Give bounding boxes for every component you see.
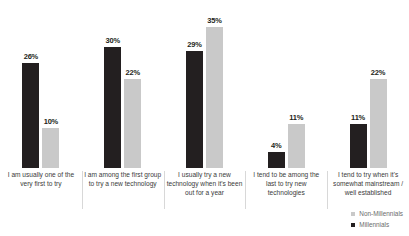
category-label: I tend to try when it's somewhat mainstr…	[327, 170, 409, 198]
bar-non-millennials	[206, 27, 223, 168]
category-label: I tend to be among the last to try new t…	[245, 170, 327, 198]
bar-chart: 26%10%30%22%29%35%4%11%11%22% I am usual…	[0, 0, 409, 236]
bar-value-label: 29%	[187, 40, 201, 49]
legend-label: Non-Millennials	[359, 209, 403, 218]
bar-column: 35%	[206, 0, 223, 168]
legend-label: Millennials	[359, 220, 389, 229]
bar-value-label: 35%	[207, 16, 221, 25]
bar-value-label: 22%	[125, 68, 139, 77]
legend-swatch-icon	[351, 212, 355, 216]
bar-non-millennials	[42, 128, 59, 168]
bar-column: 22%	[370, 0, 387, 168]
category-separator	[164, 171, 165, 209]
bar-column: 29%	[186, 0, 203, 168]
bar-column: 26%	[22, 0, 39, 168]
category-label: I usually try a new technology when it's…	[164, 170, 246, 198]
bar-column: 30%	[104, 0, 121, 168]
bar-value-label: 22%	[371, 68, 385, 77]
bar-value-label: 30%	[105, 36, 119, 45]
category-separator	[82, 171, 83, 209]
bar-group: 29%35%	[164, 0, 246, 168]
bar-group: 4%11%	[245, 0, 327, 168]
bar-column: 4%	[268, 0, 285, 168]
bar-non-millennials	[288, 124, 305, 168]
bar-non-millennials	[124, 79, 141, 168]
bar-value-label: 10%	[44, 117, 58, 126]
bar-millennials	[268, 152, 285, 168]
bar-non-millennials	[370, 79, 387, 168]
category-label: I am usually one of the very first to tr…	[0, 170, 82, 188]
legend-item[interactable]: Millennials	[351, 220, 403, 229]
bar-group-bars: 26%10%	[0, 0, 82, 168]
category-separator	[245, 171, 246, 209]
plot-area: 26%10%30%22%29%35%4%11%11%22%	[0, 0, 409, 168]
bar-value-label: 26%	[24, 52, 38, 61]
bar-value-label: 4%	[271, 141, 281, 150]
bar-group: 11%22%	[327, 0, 409, 168]
category-separator	[327, 171, 328, 209]
bar-value-label: 11%	[289, 113, 303, 122]
bar-millennials	[22, 63, 39, 168]
legend-item[interactable]: Non-Millennials	[351, 209, 403, 218]
bar-group-bars: 4%11%	[245, 0, 327, 168]
category-label: I am among the first group to try a new …	[82, 170, 164, 188]
bar-millennials	[104, 47, 121, 168]
legend-swatch-icon	[351, 223, 355, 227]
bar-group-bars: 30%22%	[82, 0, 164, 168]
bar-column: 10%	[42, 0, 59, 168]
bar-group-bars: 11%22%	[327, 0, 409, 168]
bar-column: 11%	[288, 0, 305, 168]
bar-value-label: 11%	[351, 113, 365, 122]
bar-group-bars: 29%35%	[164, 0, 246, 168]
bar-millennials	[186, 51, 203, 168]
bar-group: 30%22%	[82, 0, 164, 168]
category-axis: I am usually one of the very first to tr…	[0, 170, 409, 210]
bar-column: 11%	[350, 0, 367, 168]
bar-group: 26%10%	[0, 0, 82, 168]
chart-legend: Non-MillennialsMillennials	[351, 209, 403, 231]
bar-column: 22%	[124, 0, 141, 168]
bar-millennials	[350, 124, 367, 168]
